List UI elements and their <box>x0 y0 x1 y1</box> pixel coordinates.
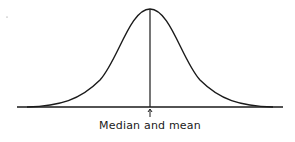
median-mean-label: Median and mean <box>0 119 295 132</box>
speck-dot <box>7 17 8 18</box>
up-arrow-icon <box>148 109 152 117</box>
